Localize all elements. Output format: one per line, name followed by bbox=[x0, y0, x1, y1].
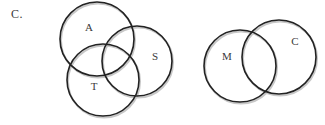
set-s-circle bbox=[102, 26, 172, 96]
two-set-venn bbox=[204, 20, 317, 104]
set-t-label: T bbox=[91, 81, 98, 92]
set-s-label: S bbox=[152, 51, 158, 62]
venn-diagram-figure: C. A S T M C bbox=[0, 0, 325, 125]
set-a-label: A bbox=[85, 22, 93, 33]
set-m-label: M bbox=[222, 51, 232, 62]
venn-diagrams-svg bbox=[0, 0, 325, 125]
set-c-circle bbox=[242, 20, 316, 94]
set-c-label: C bbox=[291, 36, 298, 47]
option-label: C. bbox=[11, 7, 23, 22]
